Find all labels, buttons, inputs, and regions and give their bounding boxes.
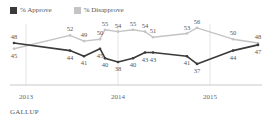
disapprove-point (186, 32, 189, 35)
approve-point (13, 42, 16, 45)
approve-value-label: 37 (194, 67, 201, 74)
approve-point (99, 47, 102, 50)
disapprove-value-label: 54 (142, 22, 149, 29)
approve-value-label: 48 (11, 33, 18, 40)
approve-point (186, 55, 189, 58)
disapprove-point (232, 38, 235, 41)
disapprove-point (104, 28, 107, 31)
approve-value-label: 44 (230, 54, 237, 61)
approve-point (69, 49, 72, 52)
approve-point (104, 57, 107, 60)
approve-value-label: 45 (97, 52, 104, 59)
disapprove-value-label: 48 (255, 33, 262, 40)
disapprove-point (13, 47, 16, 50)
disapprove-value-label: 55 (102, 20, 109, 27)
disapprove-point (144, 30, 147, 33)
disapprove-point (152, 36, 155, 39)
year-label-2015: 2015 (203, 93, 217, 101)
approve-point (117, 61, 120, 64)
disapprove-point (117, 30, 120, 33)
disapprove-value-label: 56 (194, 18, 201, 25)
source-label: GALLUP (10, 108, 39, 116)
approve-point (144, 51, 147, 54)
approve-value-label: 40 (130, 61, 137, 68)
disapprove-value-label: 50 (230, 29, 237, 36)
disapprove-value-label: 54 (115, 22, 122, 29)
line-chart: 4844414540384043434137444745524950555455… (0, 0, 267, 120)
approve-point (83, 55, 86, 58)
disapprove-value-label: 52 (67, 25, 74, 32)
approve-value-label: 41 (81, 59, 88, 66)
disapprove-value-label: 55 (130, 20, 137, 27)
approve-point (152, 51, 155, 54)
approve-point (257, 44, 260, 47)
disapprove-point (99, 38, 102, 41)
disapprove-value-label: 49 (81, 31, 88, 38)
year-label-2013: 2013 (19, 93, 33, 101)
disapprove-point (83, 40, 86, 43)
approve-value-label: 44 (67, 54, 74, 61)
approve-value-label: 43 (142, 56, 149, 63)
disapprove-point (132, 28, 135, 31)
disapprove-point (69, 34, 72, 37)
disapprove-value-label: 45 (11, 52, 18, 59)
approve-point (232, 49, 235, 52)
approve-value-label: 38 (115, 65, 122, 72)
approve-value-label: 40 (102, 61, 109, 68)
approve-value-label: 47 (255, 48, 262, 55)
year-label-2014: 2014 (111, 93, 125, 101)
approve-point (196, 63, 199, 66)
approve-value-label: 43 (150, 56, 157, 63)
approve-point (132, 57, 135, 60)
disapprove-line (14, 28, 258, 49)
approve-value-label: 41 (184, 59, 191, 66)
disapprove-value-label: 53 (184, 24, 191, 31)
disapprove-point (196, 27, 199, 30)
disapprove-value-label: 50 (97, 29, 104, 36)
disapprove-value-label: 51 (150, 27, 157, 34)
